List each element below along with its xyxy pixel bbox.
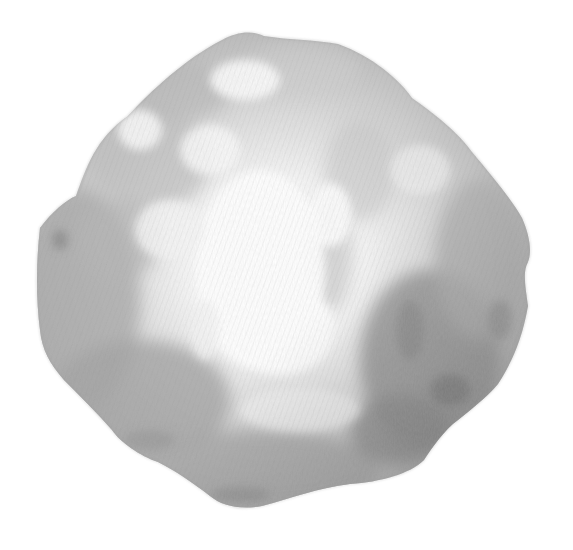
rock-illustration [0,0,573,550]
illustration-canvas [0,0,573,550]
rock-body [0,0,573,550]
